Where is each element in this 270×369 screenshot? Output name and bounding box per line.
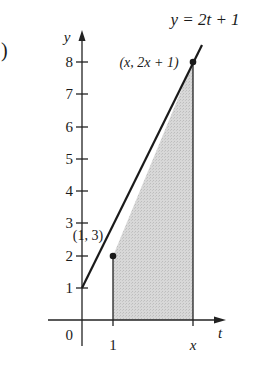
y-tick-label: 7 [66,86,74,102]
y-tick-label: 4 [66,183,74,199]
point-x-2x-plus-1 [190,59,197,66]
point-1-3 [110,253,117,260]
origin-label: 0 [66,327,74,343]
x-tick-label-x: x [189,337,197,353]
y-tick-label: 2 [66,248,74,264]
y-axis-label: y [62,29,71,45]
y-tick-label: 8 [66,54,74,70]
shaded-area [113,62,193,320]
point-label-x: (x, 2x + 1) [119,55,179,71]
y-tick-label: 1 [66,280,74,296]
figure-label: ) [1,39,8,62]
x-ticks [113,320,193,326]
x-axis-arrow-icon [214,317,226,324]
x-axis-label: t [218,325,223,341]
y-axis-arrow-icon [79,30,86,41]
y-tick-label: 6 [66,119,74,135]
chart: ) 1 2 3 4 5 6 7 8 1 x 0 y t [0,0,270,369]
curve-label: y = 2t + 1 [168,10,239,29]
point-label-1-3: (1, 3) [73,228,104,244]
x-tick-label-1: 1 [109,337,117,353]
y-tick-label: 5 [66,151,74,167]
